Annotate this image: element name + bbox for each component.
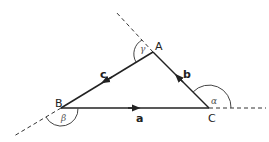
vertex-label-c: C — [208, 112, 216, 125]
vector-label-a: a — [136, 112, 143, 125]
vector-label-b: b — [183, 68, 191, 81]
vertex-label-a: A — [155, 40, 163, 53]
extension-from-a — [116, 12, 153, 52]
extension-from-b — [14, 108, 61, 136]
angle-label-alpha: α — [211, 96, 217, 106]
vertex-label-b: B — [55, 97, 63, 110]
angle-label-beta: β — [60, 113, 66, 123]
angle-label-gamma: γ — [140, 44, 146, 54]
triangle-diagram: A B C a b c α β γ — [0, 0, 269, 142]
vector-label-c: c — [100, 68, 107, 81]
